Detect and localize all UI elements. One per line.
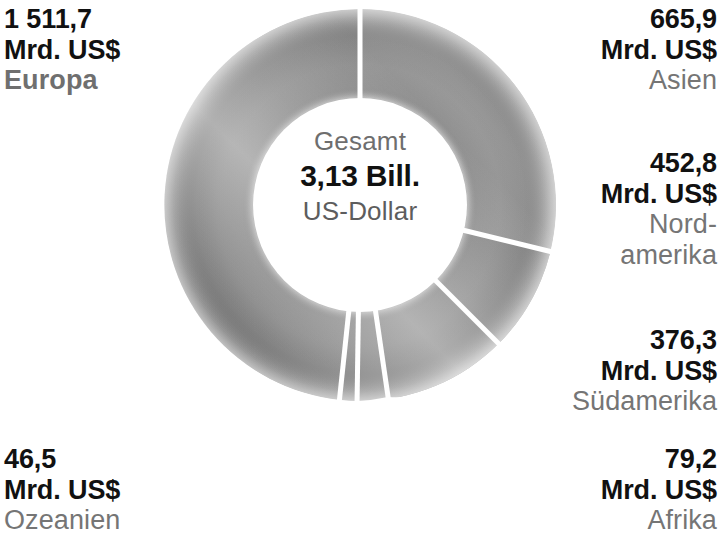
label-afrika: 79,2 Mrd. US$ Afrika — [601, 444, 717, 536]
label-ozeanien-value: 46,5 — [4, 444, 120, 475]
label-afrika-unit: Mrd. US$ — [601, 475, 717, 506]
label-europa: 1 511,7 Mrd. US$ Europa — [4, 4, 120, 96]
label-nordamerika-region-line1: Nord- — [601, 209, 717, 240]
label-asien-region: Asien — [601, 65, 717, 96]
label-asien-value: 665,9 — [601, 4, 717, 35]
label-europa-region: Europa — [4, 65, 120, 96]
label-nordamerika-unit: Mrd. US$ — [601, 179, 717, 210]
label-asien-unit: Mrd. US$ — [601, 35, 717, 66]
label-afrika-value: 79,2 — [601, 444, 717, 475]
label-nordamerika-value: 452,8 — [601, 148, 717, 179]
label-asien: 665,9 Mrd. US$ Asien — [601, 4, 717, 96]
donut-segments — [164, 8, 557, 402]
label-suedamerika-value: 376,3 — [572, 325, 717, 356]
label-suedamerika: 376,3 Mrd. US$ Südamerika — [572, 325, 717, 417]
label-europa-unit: Mrd. US$ — [4, 35, 120, 66]
label-afrika-region: Afrika — [601, 505, 717, 536]
donut-chart — [163, 8, 557, 402]
label-ozeanien: 46,5 Mrd. US$ Ozeanien — [4, 444, 120, 536]
label-ozeanien-region: Ozeanien — [4, 505, 120, 536]
label-suedamerika-region: Südamerika — [572, 386, 717, 417]
label-ozeanien-unit: Mrd. US$ — [4, 475, 120, 506]
chart-canvas: Gesamt 3,13 Bill. US-Dollar 1 511,7 Mrd.… — [0, 0, 721, 556]
donut-svg — [163, 8, 557, 402]
label-nordamerika-region-line2: amerika — [601, 240, 717, 271]
label-europa-value: 1 511,7 — [4, 4, 120, 35]
label-nordamerika: 452,8 Mrd. US$ Nord- amerika — [601, 148, 717, 270]
label-suedamerika-unit: Mrd. US$ — [572, 356, 717, 387]
